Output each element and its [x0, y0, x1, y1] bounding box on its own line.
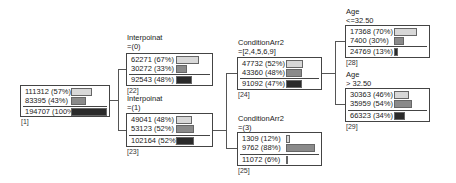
connector-1-to-23: [118, 130, 126, 131]
class-a-bar: [394, 91, 409, 99]
class-a-bar: [176, 56, 199, 64]
class-b-count: 7400 (30%): [350, 37, 389, 45]
node-id: [24]: [238, 91, 250, 99]
split-condition: > 32.50: [346, 80, 371, 88]
connector-1-trunk: [110, 100, 118, 101]
total-count: 66323 (34%): [350, 112, 393, 120]
connector-1-to-22: [118, 69, 126, 70]
class-a-count: 47732 (52%): [242, 60, 285, 68]
class-a-count: 30363 (46%): [350, 91, 393, 99]
total-bar: [394, 112, 405, 120]
connector-24-vertical: [335, 41, 336, 105]
connector-23-vertical: [226, 73, 227, 149]
class-a-bar: [394, 28, 417, 36]
connector-24-to-29: [335, 104, 345, 105]
class-a-count: 49041 (48%): [131, 116, 174, 124]
class-b-bar: [394, 37, 404, 45]
node-id: [23]: [127, 148, 139, 156]
connector-24-trunk: [322, 73, 335, 74]
class-a-bar: [71, 88, 92, 96]
node-id: [28]: [346, 59, 358, 67]
split-condition: =(1): [127, 104, 141, 112]
connector-23-to-25: [226, 148, 237, 149]
total-count: 102164 (52%): [131, 137, 178, 145]
node-box[interactable]: 17368 (70%) 7400 (30%) 24769 (13%): [345, 25, 430, 58]
total-bar: [286, 156, 288, 164]
connector-23-trunk: [213, 130, 226, 131]
node-id: [1]: [21, 118, 29, 126]
split-variable: ConditionArr2: [238, 39, 284, 47]
class-b-count: 43360 (48%): [242, 69, 285, 77]
split-condition: =(3): [238, 124, 252, 132]
split-variable: ConditionArr2: [238, 115, 284, 123]
connector-23-to-24: [226, 73, 237, 74]
class-a-bar: [286, 135, 290, 143]
split-condition: =[2,4,5,6,9]: [238, 48, 276, 56]
total-count: 11072 (6%): [242, 156, 280, 164]
node-box[interactable]: 49041 (48%) 53123 (52%) 102164 (52%): [126, 113, 213, 147]
node-box[interactable]: 30363 (46%) 35959 (54%) 66323 (34%): [345, 88, 430, 122]
total-bar: [176, 76, 192, 84]
total-count: 92543 (48%): [131, 76, 174, 84]
node-id: [25]: [238, 167, 250, 175]
split-variable: Age: [346, 71, 359, 79]
split-condition: <=32.50: [346, 17, 374, 25]
class-b-bar: [176, 125, 194, 133]
split-variable: Interpoinat: [127, 95, 162, 103]
class-b-bar: [71, 97, 86, 105]
class-a-bar: [176, 116, 192, 124]
split-variable: Interpoinat: [127, 34, 162, 42]
node-box[interactable]: 111312 (57%) 83395 (43%) 194707 (100%): [20, 85, 110, 117]
class-b-bar: [286, 69, 302, 77]
class-a-count: 111312 (57%): [25, 88, 71, 96]
class-b-bar: [286, 144, 315, 152]
total-count: 194707 (100%): [25, 108, 76, 116]
class-b-bar: [394, 100, 412, 108]
node-box[interactable]: 62271 (67%) 30272 (33%) 92543 (48%): [126, 53, 213, 86]
node-box[interactable]: 47732 (52%) 43360 (48%) 91092 (47%): [237, 57, 322, 90]
total-bar: [176, 137, 194, 145]
total-bar: [286, 80, 302, 88]
class-a-count: 1309 (12%): [242, 135, 281, 143]
class-b-count: 9762 (88%): [242, 144, 281, 152]
total-count: 91092 (47%): [242, 80, 285, 88]
class-b-count: 30272 (33%): [131, 65, 174, 73]
connector-24-to-28: [335, 41, 345, 42]
class-a-bar: [286, 60, 303, 68]
class-b-count: 83395 (43%): [25, 97, 68, 105]
total-bar: [394, 48, 398, 56]
node-id: [29]: [346, 123, 358, 131]
connector-1-vertical: [118, 69, 119, 130]
class-a-count: 17368 (70%): [350, 28, 393, 36]
split-variable: Age: [346, 8, 359, 16]
class-b-count: 53123 (52%): [131, 125, 174, 133]
total-bar: [71, 108, 107, 116]
class-a-count: 62271 (67%): [131, 56, 174, 64]
class-b-bar: [176, 65, 187, 73]
node-box[interactable]: 1309 (12%) 9762 (88%) 11072 (6%): [237, 132, 322, 166]
split-condition: =(0): [127, 43, 141, 51]
class-b-count: 35959 (54%): [350, 100, 393, 108]
total-count: 24769 (13%): [350, 48, 393, 56]
